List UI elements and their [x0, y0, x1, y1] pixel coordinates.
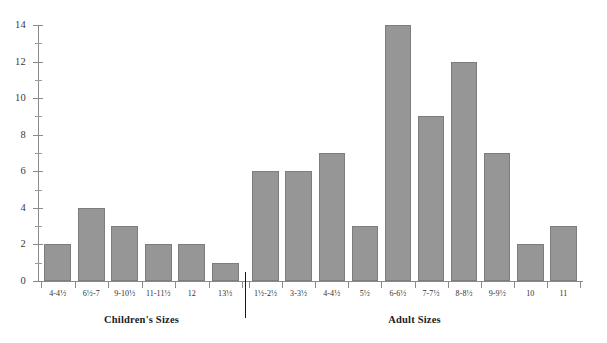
y-axis-label-10: 10: [0, 93, 26, 103]
bar: [285, 171, 311, 281]
x-axis-label: 12: [175, 289, 209, 298]
x-tick: [242, 282, 243, 288]
x-tick: [315, 282, 316, 288]
x-tick: [448, 282, 449, 288]
x-axis-label: 11: [547, 289, 580, 298]
bar: [550, 226, 576, 281]
x-axis-label: 9-10½: [108, 289, 142, 298]
bar: [178, 244, 205, 281]
y-axis-label-2: 2: [0, 239, 26, 249]
y-axis-label-8: 8: [0, 130, 26, 140]
bar-chart: 02468101214 4-4½6½-79-10½11-11½1213½1½-2…: [0, 0, 607, 343]
y-axis-label-6: 6: [0, 166, 26, 176]
x-tick: [142, 282, 143, 288]
x-axis-label: 11-11½: [142, 289, 176, 298]
x-axis-label: 4-4½: [41, 289, 75, 298]
group-divider: [245, 272, 246, 318]
x-axis-label: 10: [514, 289, 547, 298]
bar: [252, 171, 278, 281]
y-axis-label-4: 4: [0, 203, 26, 213]
x-tick: [481, 282, 482, 288]
x-tick: [547, 282, 548, 288]
group-caption-adult: Adult Sizes: [249, 314, 580, 325]
bar: [111, 226, 138, 281]
bars-layer: [38, 25, 583, 281]
x-axis-label: 13½: [209, 289, 243, 298]
x-tick: [348, 282, 349, 288]
x-tick: [381, 282, 382, 288]
x-axis-label: 7-7½: [415, 289, 448, 298]
x-tick: [415, 282, 416, 288]
bar: [145, 244, 172, 281]
bar: [212, 263, 239, 281]
y-axis-label-0: 0: [0, 276, 26, 286]
x-axis-label: 6½-7: [75, 289, 109, 298]
x-tick: [282, 282, 283, 288]
bar: [418, 116, 444, 281]
x-axis-line: [38, 281, 583, 282]
x-axis-label: 5½: [348, 289, 381, 298]
x-tick: [41, 282, 42, 288]
bar: [385, 25, 411, 281]
bar: [78, 208, 105, 281]
bar: [352, 226, 378, 281]
y-axis-label-12: 12: [0, 57, 26, 67]
x-tick: [580, 282, 581, 288]
bar: [319, 153, 345, 281]
x-axis-label: 4-4½: [315, 289, 348, 298]
x-axis-label: 9-9½: [481, 289, 514, 298]
bar: [517, 244, 543, 281]
x-axis-label: 3-3½: [282, 289, 315, 298]
x-tick: [108, 282, 109, 288]
bar: [44, 244, 71, 281]
x-tick: [209, 282, 210, 288]
x-tick: [75, 282, 76, 288]
x-axis-label: 1½-2½: [249, 289, 282, 298]
bar: [451, 62, 477, 281]
x-tick: [249, 282, 250, 288]
y-axis-label-14: 14: [0, 20, 26, 30]
x-tick: [175, 282, 176, 288]
x-tick: [514, 282, 515, 288]
x-axis-label: 8-8½: [448, 289, 481, 298]
bar: [484, 153, 510, 281]
group-caption-children: Children's Sizes: [41, 314, 242, 325]
x-axis-label: 6-6½: [381, 289, 414, 298]
